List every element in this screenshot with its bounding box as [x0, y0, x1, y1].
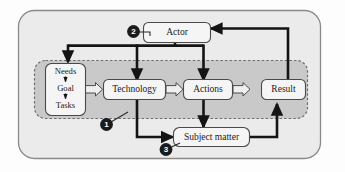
node-result-label: Result [271, 84, 296, 94]
node-needs-goal-tasks[interactable]: Needs Goal Tasks [46, 64, 86, 116]
marker-2-label: 2 [131, 27, 136, 36]
node-subject-matter-label: Subject matter [184, 132, 240, 142]
marker-1-label: 1 [104, 120, 109, 129]
marker-3-label: 3 [164, 145, 169, 154]
node-actions[interactable]: Actions [184, 80, 233, 100]
diagram-canvas: Actor Needs Goal Tasks Technology Action… [0, 0, 345, 172]
node-actor-label: Actor [166, 27, 188, 37]
node-needs-label: Needs [55, 66, 77, 76]
node-result[interactable]: Result [262, 80, 306, 100]
node-actor[interactable]: Actor [144, 23, 211, 43]
node-actions-label: Actions [193, 84, 223, 94]
node-technology[interactable]: Technology [104, 80, 166, 100]
node-subject-matter[interactable]: Subject matter [174, 128, 250, 147]
node-technology-label: Technology [112, 84, 157, 94]
diagram-svg: Actor Needs Goal Tasks Technology Action… [0, 0, 345, 172]
node-tasks-label: Tasks [56, 100, 76, 110]
node-goal-label: Goal [57, 83, 74, 93]
